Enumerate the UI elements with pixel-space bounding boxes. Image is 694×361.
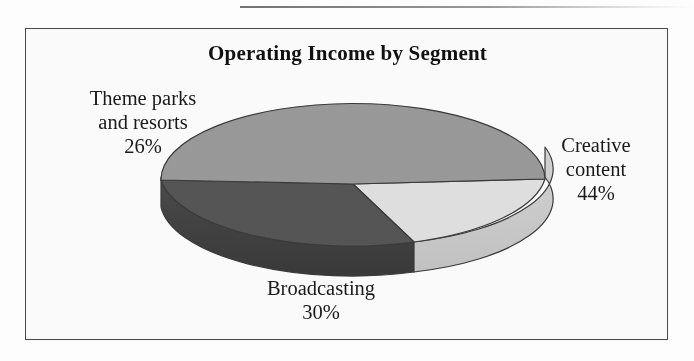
chart-page: Operating Income by Segment xyxy=(0,0,694,361)
pie-label-creative-content: Creative content 44% xyxy=(526,134,666,205)
pie-label-broadcasting: Broadcasting 30% xyxy=(201,277,441,325)
chart-frame: Operating Income by Segment xyxy=(25,28,668,340)
scan-artifact-line xyxy=(240,6,694,8)
pie-label-theme-parks: Theme parks and resorts 26% xyxy=(48,87,238,158)
